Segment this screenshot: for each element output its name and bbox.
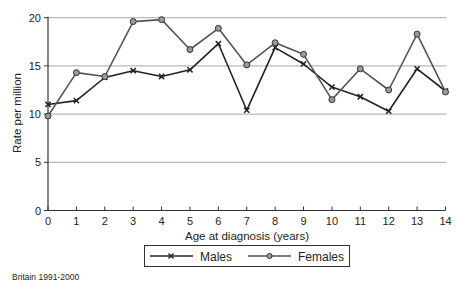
y-axis-title: Rate per million bbox=[11, 73, 23, 153]
y-tick-label: 10 bbox=[29, 108, 41, 120]
circle-marker-icon bbox=[443, 89, 449, 95]
circle-marker-icon bbox=[45, 113, 51, 119]
source-note: Britain 1991-2000 bbox=[12, 272, 79, 282]
x-tick-label: 5 bbox=[187, 215, 193, 227]
x-tick-label: 6 bbox=[215, 215, 221, 227]
x-marker-icon bbox=[386, 109, 391, 114]
y-tick-labels: 05101520 bbox=[29, 12, 41, 217]
legend-label-females: Females bbox=[298, 250, 344, 264]
y-tick-label: 5 bbox=[35, 156, 41, 168]
y-tick-label: 0 bbox=[35, 205, 41, 217]
circle-marker-icon bbox=[386, 87, 392, 93]
x-tick-label: 7 bbox=[244, 215, 250, 227]
circle-marker-icon bbox=[73, 70, 79, 76]
series-females bbox=[45, 17, 449, 119]
circle-marker-icon bbox=[414, 31, 420, 37]
x-tick-label: 12 bbox=[383, 215, 395, 227]
y-tick-label: 15 bbox=[29, 60, 41, 72]
circle-marker-icon bbox=[159, 17, 165, 23]
circle-marker-icon bbox=[329, 97, 335, 103]
circle-marker-icon bbox=[301, 51, 307, 57]
data-series bbox=[45, 17, 449, 119]
circle-marker-icon bbox=[272, 40, 278, 46]
x-axis-title: Age at diagnosis (years) bbox=[185, 230, 309, 242]
x-tick-label: 11 bbox=[355, 215, 366, 227]
circle-marker-icon bbox=[267, 253, 272, 258]
x-tick-label: 4 bbox=[159, 215, 165, 227]
x-tick-label: 13 bbox=[411, 215, 423, 227]
x-tick-label: 9 bbox=[300, 215, 306, 227]
circle-marker-icon bbox=[187, 47, 193, 53]
circle-marker-icon bbox=[102, 74, 108, 80]
legend: Males Females bbox=[145, 246, 350, 267]
x-tick-label: 14 bbox=[439, 215, 451, 227]
x-tick-label: 1 bbox=[73, 215, 79, 227]
y-tick-label: 20 bbox=[29, 12, 41, 24]
x-tick-label: 8 bbox=[272, 215, 278, 227]
legend-label-males: Males bbox=[200, 250, 232, 264]
line-chart: 05101520 01234567891011121314 Rate per m… bbox=[0, 0, 462, 285]
x-marker-icon bbox=[415, 66, 420, 71]
x-tick-label: 3 bbox=[130, 215, 136, 227]
x-tick-label: 2 bbox=[102, 215, 108, 227]
circle-marker-icon bbox=[244, 62, 250, 68]
x-tick-label: 10 bbox=[326, 215, 338, 227]
circle-marker-icon bbox=[357, 66, 363, 72]
circle-marker-icon bbox=[130, 19, 136, 25]
x-tick-labels: 01234567891011121314 bbox=[45, 215, 452, 227]
circle-marker-icon bbox=[215, 25, 221, 31]
x-tick-label: 0 bbox=[45, 215, 51, 227]
